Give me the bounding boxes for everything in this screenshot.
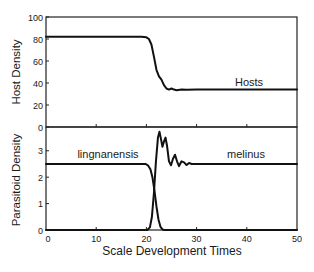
svg-text:0: 0 xyxy=(38,226,43,236)
lingnanensis-curve xyxy=(46,164,297,230)
svg-text:0: 0 xyxy=(45,234,50,244)
melinus-curve xyxy=(46,132,297,230)
parasitoid-panel-frame xyxy=(46,127,297,230)
tick-labels: 020406080100012301020304050 xyxy=(28,13,302,245)
svg-text:2: 2 xyxy=(38,173,43,183)
host-density-axis-title: Host Density xyxy=(10,39,22,104)
svg-text:20: 20 xyxy=(33,101,43,111)
chart-figure: 020406080100012301020304050 Host Density… xyxy=(0,0,314,272)
x-axis-title: Scale Development Times xyxy=(102,244,241,258)
axis-ticks xyxy=(46,17,247,230)
svg-text:0: 0 xyxy=(38,123,43,133)
svg-text:20: 20 xyxy=(141,234,151,244)
svg-text:50: 50 xyxy=(292,234,302,244)
svg-text:60: 60 xyxy=(33,57,43,67)
svg-text:3: 3 xyxy=(38,146,43,156)
svg-text:40: 40 xyxy=(33,79,43,89)
host-panel-frame xyxy=(46,17,297,127)
svg-text:10: 10 xyxy=(91,234,101,244)
svg-text:40: 40 xyxy=(242,234,252,244)
melinus-series-label: melinus xyxy=(227,148,265,160)
chart-svg: 020406080100012301020304050 Host Density… xyxy=(0,0,314,272)
svg-text:1: 1 xyxy=(38,199,43,209)
parasitoid-density-axis-title: Parasitoid Density xyxy=(10,133,22,226)
svg-text:100: 100 xyxy=(28,13,43,23)
lingnanensis-series-label: lingnanensis xyxy=(77,148,139,160)
svg-text:80: 80 xyxy=(33,35,43,45)
data-curves xyxy=(46,37,297,230)
hosts-series-label: Hosts xyxy=(235,76,264,88)
svg-text:30: 30 xyxy=(192,234,202,244)
